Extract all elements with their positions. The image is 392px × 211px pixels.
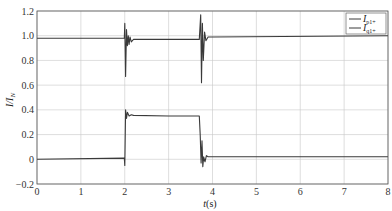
y-tick-label: 0.2 xyxy=(22,129,35,140)
line-chart: 1.21.00.80.60.40.20−0.2 012345678 t(s) I… xyxy=(0,0,392,211)
y-tick-label: 1.2 xyxy=(22,6,35,17)
y-tick-label: 0.8 xyxy=(22,55,35,66)
x-tick-label: 6 xyxy=(298,186,303,197)
y-tick-label: −0.2 xyxy=(16,179,34,190)
x-tick-label: 8 xyxy=(386,186,391,197)
x-tick-label: 4 xyxy=(210,186,215,197)
x-tick-label: 1 xyxy=(78,186,83,197)
x-tick-label: 2 xyxy=(122,186,127,197)
y-tick-labels: 1.21.00.80.60.40.20−0.2 xyxy=(16,6,34,190)
y-tick-label: 0 xyxy=(29,154,34,165)
y-tick-label: 0.6 xyxy=(22,80,35,91)
x-tick-label: 0 xyxy=(35,186,40,197)
x-tick-label: 5 xyxy=(254,186,259,197)
y-tick-label: 0.4 xyxy=(22,104,35,115)
x-axis-label: t(s) xyxy=(203,198,216,210)
legend: Ip1+ Iq1+ xyxy=(346,13,386,34)
x-tick-label: 3 xyxy=(166,186,171,197)
x-tick-label: 7 xyxy=(342,186,347,197)
y-axis-label: I/IN xyxy=(4,93,17,108)
y-tick-label: 1.0 xyxy=(22,30,35,41)
x-tick-labels: 012345678 xyxy=(35,186,391,197)
